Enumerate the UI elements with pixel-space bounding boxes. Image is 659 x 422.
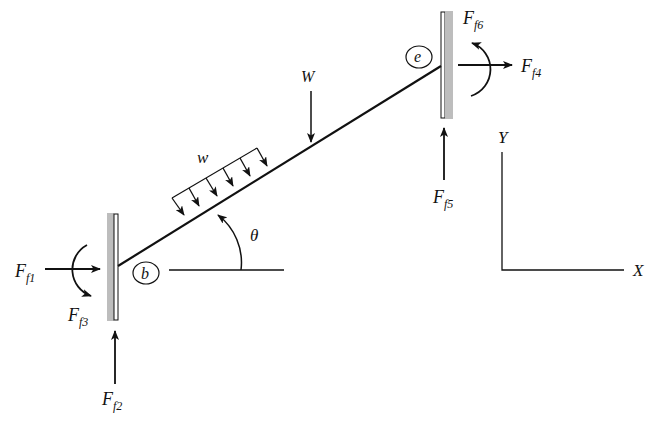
- point-load-label: W: [301, 68, 316, 85]
- reaction-ff3-moment: Ff3: [67, 245, 91, 329]
- point-load: W: [301, 68, 316, 142]
- beam: [118, 66, 441, 266]
- reaction-ff1: Ff1: [14, 261, 100, 285]
- reaction-ff4: Ff4: [458, 56, 541, 80]
- svg-text:Ff5: Ff5: [432, 187, 453, 211]
- free-body-diagram: θ b e w W Ff1 Ff3 Ff2: [0, 0, 659, 422]
- node-e-label: e: [414, 48, 421, 65]
- node-b-label: b: [141, 265, 149, 282]
- svg-text:Ff3: Ff3: [67, 305, 88, 329]
- svg-text:Ff1: Ff1: [14, 261, 35, 285]
- svg-text:Ff2: Ff2: [101, 389, 122, 413]
- reaction-ff2: Ff2: [101, 331, 122, 413]
- reaction-ff6-moment: Ff6: [462, 8, 490, 96]
- theta-label: θ: [250, 226, 258, 245]
- coordinate-axes: Y X: [498, 128, 644, 280]
- y-axis-label: Y: [498, 128, 509, 147]
- x-axis-label: X: [632, 261, 644, 280]
- left-wall-support: [107, 213, 118, 321]
- theta-arc-icon: [218, 215, 241, 270]
- node-e: e: [406, 46, 432, 68]
- svg-text:Ff4: Ff4: [520, 56, 541, 80]
- right-wall-support: [441, 11, 453, 119]
- reaction-ff5: Ff5: [432, 128, 453, 211]
- distributed-load-label: w: [197, 148, 209, 167]
- node-b: b: [133, 262, 159, 284]
- svg-text:Ff6: Ff6: [462, 8, 483, 32]
